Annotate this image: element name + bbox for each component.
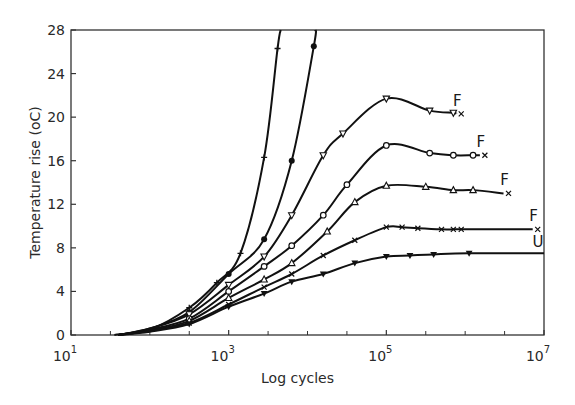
series-open-inverted-triangle [118, 96, 463, 335]
plot-frame [71, 30, 544, 335]
y-tick-label: 4 [56, 283, 65, 299]
curve-line [118, 30, 316, 335]
curve-end-label: F [529, 207, 538, 225]
cross-marker [506, 191, 511, 196]
curve-line [118, 144, 480, 335]
y-tick-label: 16 [47, 153, 65, 169]
curve-line [118, 185, 503, 335]
cross-marker [535, 227, 540, 232]
y-tick-label: 8 [56, 240, 65, 256]
open-circle-marker [289, 243, 295, 249]
curves [114, 30, 544, 335]
plus-marker [275, 46, 281, 52]
curve-end-label: U [533, 233, 544, 251]
open-circle-marker [384, 143, 390, 149]
open-circle-marker [261, 264, 267, 270]
y-tick-label: 24 [47, 66, 65, 82]
series-open-circle [118, 143, 487, 335]
curve-end-label: F [477, 133, 486, 151]
cross-marker [459, 111, 464, 116]
plus-marker [261, 154, 267, 160]
open-circle-marker [344, 182, 350, 188]
x-tick-label: 101 [53, 344, 77, 364]
open-circle-marker [451, 152, 457, 158]
open-circle-marker [470, 152, 476, 158]
y-tick-label: 12 [47, 196, 65, 212]
x-tick-label: 105 [368, 344, 392, 364]
x-tick-label: 107 [526, 344, 550, 364]
open-circle-marker [320, 212, 326, 218]
series-plus [114, 30, 280, 335]
chart: 0481216202428101103105107Log cyclesTempe… [0, 0, 575, 405]
series-open-triangle [118, 182, 511, 335]
axes: 0481216202428101103105107Log cyclesTempe… [27, 22, 550, 386]
x-axis-title: Log cycles [261, 370, 334, 386]
y-tick-label: 28 [47, 22, 65, 38]
plus-marker [237, 250, 243, 256]
curve-end-label: F [453, 92, 462, 110]
y-axis-title: Temperature rise (oC) [27, 106, 43, 259]
labels: FFFFU [453, 92, 544, 251]
filled-circle-marker [289, 158, 295, 164]
series-filled-circle [118, 30, 317, 335]
open-circle-marker [427, 150, 433, 156]
filled-circle-marker [226, 271, 232, 277]
cross-marker [482, 153, 487, 158]
y-tick-label: 0 [56, 327, 65, 343]
x-tick-label: 103 [211, 344, 235, 364]
curve-end-label: F [500, 171, 509, 189]
curve-line [118, 98, 456, 335]
filled-circle-marker [261, 236, 267, 242]
curve-line [114, 30, 280, 335]
filled-circle-marker [311, 43, 317, 49]
y-tick-label: 20 [47, 109, 65, 125]
